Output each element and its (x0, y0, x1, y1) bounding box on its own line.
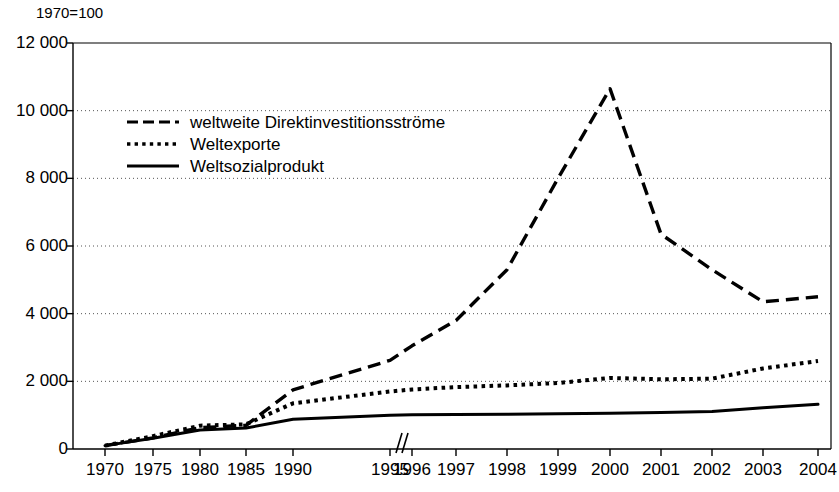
x-axis-tick-label: 2001 (642, 461, 680, 479)
legend-item-weltexporte: Weltexporte (126, 133, 466, 155)
x-axis-tick-labels: 1970197519801985199019951996199719981999… (0, 459, 839, 492)
x-axis-tick-label: 2002 (693, 461, 731, 479)
x-axis-tick-label: 1980 (181, 461, 219, 479)
x-axis-tick-label: 2003 (744, 461, 782, 479)
x-axis-tick-label: 1975 (134, 461, 172, 479)
x-axis-tick-label: 1996 (393, 461, 431, 479)
legend-item-direktinvestitionsstroeme: weltweite Direktinvestitionsströme (126, 111, 466, 133)
legend-label-direktinvestitionsstroeme: weltweite Direktinvestitionsströme (190, 113, 445, 132)
plot-area (0, 0, 839, 492)
dashed-line-key (126, 115, 180, 129)
solid-line-key (126, 159, 180, 173)
axis-break-mark (396, 433, 402, 453)
chart-legend: weltweite Direktinvestitionsströme Welte… (126, 111, 466, 177)
x-axis-tick-label: 1997 (437, 461, 475, 479)
chart-container: 1970=100 12 00010 0008 0006 0004 0002 00… (0, 0, 839, 492)
x-axis-tick-label: 1970 (86, 461, 124, 479)
x-axis-tick-label: 1999 (539, 461, 577, 479)
x-axis-tick-label: 2004 (799, 461, 837, 479)
x-axis-tick-label: 1998 (488, 461, 526, 479)
x-axis-tick-label: 2000 (591, 461, 629, 479)
axis-break-mark (402, 433, 408, 453)
dotted-line-key (126, 137, 180, 151)
legend-label-weltexporte: Weltexporte (190, 135, 280, 154)
legend-label-weltsozialprodukt: Weltsozialprodukt (190, 157, 324, 176)
series-line-2 (105, 361, 818, 446)
x-axis-tick-label: 1985 (227, 461, 265, 479)
x-axis-tick-label: 1990 (274, 461, 312, 479)
series-line-3 (105, 404, 818, 445)
legend-item-weltsozialprodukt: Weltsozialprodukt (126, 155, 466, 177)
